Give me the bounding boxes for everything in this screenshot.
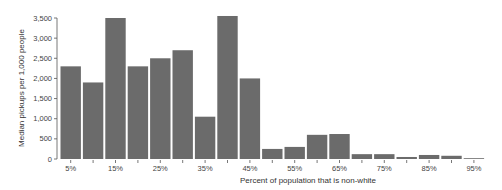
bar	[441, 156, 461, 159]
bar-chart: 05001,0001,5002,0002,5003,0003,500 5%15%…	[0, 0, 502, 190]
y-tick-label: 1,500	[33, 94, 52, 103]
bar	[285, 147, 305, 159]
x-tick-label: 75%	[377, 164, 392, 173]
bar	[240, 78, 260, 159]
x-axis-title: Percent of population that is non-white	[240, 176, 377, 185]
y-tick-label: 3,500	[33, 14, 52, 23]
y-tick-label: 2,000	[33, 74, 52, 83]
bar	[195, 117, 215, 159]
x-tick-label: 45%	[242, 164, 257, 173]
bar	[105, 18, 125, 159]
y-tick-label: 1,000	[33, 114, 52, 123]
bar	[150, 58, 170, 159]
y-axis: 05001,0001,5002,0002,5003,0003,500	[33, 14, 57, 164]
x-tick-label: 35%	[198, 164, 213, 173]
x-tick-label: 5%	[65, 164, 76, 173]
bar	[374, 154, 394, 159]
bar	[262, 149, 282, 159]
y-tick-label: 2,500	[33, 54, 52, 63]
bars	[61, 16, 485, 159]
bar	[307, 135, 327, 159]
bar	[83, 82, 103, 159]
bar	[397, 157, 417, 159]
bar	[173, 50, 193, 159]
x-tick-label: 65%	[332, 164, 347, 173]
y-tick-label: 3,000	[33, 34, 52, 43]
bar	[217, 16, 237, 159]
y-axis-title: Median pickups per 1,000 people	[17, 29, 26, 147]
bar	[464, 158, 484, 159]
x-tick-label: 85%	[422, 164, 437, 173]
x-tick-label: 55%	[287, 164, 302, 173]
bar	[128, 66, 148, 159]
y-tick-label: 0	[48, 155, 52, 164]
bar	[329, 134, 349, 159]
bar	[419, 155, 439, 159]
bar	[61, 66, 81, 159]
x-tick-label: 15%	[108, 164, 123, 173]
bar	[352, 154, 372, 159]
x-tick-label: 25%	[153, 164, 168, 173]
y-tick-label: 500	[39, 134, 52, 143]
x-axis: 5%15%25%35%45%55%65%75%85%95%	[65, 160, 481, 173]
x-tick-label: 95%	[466, 164, 481, 173]
